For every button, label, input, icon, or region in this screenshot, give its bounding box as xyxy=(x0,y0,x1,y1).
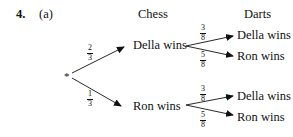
prob-della-ron: 5 8 xyxy=(200,51,206,69)
prob-root-ron: 1 3 xyxy=(87,90,93,108)
branch-ron-ron xyxy=(186,105,233,115)
prob-ron-ron: 5 8 xyxy=(200,111,206,129)
outcome-chess-della: Della wins xyxy=(133,38,187,52)
outcome-darts-ron-after-della: Ron wins xyxy=(237,49,285,63)
outcome-darts-ron-after-ron: Ron wins xyxy=(237,110,285,124)
branch-ron-della xyxy=(186,96,233,105)
branch-della-ron xyxy=(186,46,233,56)
outcome-darts-della-after-ron: Della wins xyxy=(237,89,291,103)
root-node: * xyxy=(64,69,70,83)
branch-root-ron xyxy=(72,78,121,106)
prob-della-della: 3 8 xyxy=(200,24,206,42)
branch-root-della xyxy=(72,47,124,73)
branch-della-della xyxy=(186,36,233,46)
outcome-darts-della-after-della: Della wins xyxy=(237,28,291,42)
outcome-chess-ron: Ron wins xyxy=(133,99,181,113)
prob-ron-della: 3 8 xyxy=(200,85,206,103)
prob-root-della: 2 3 xyxy=(87,44,93,62)
